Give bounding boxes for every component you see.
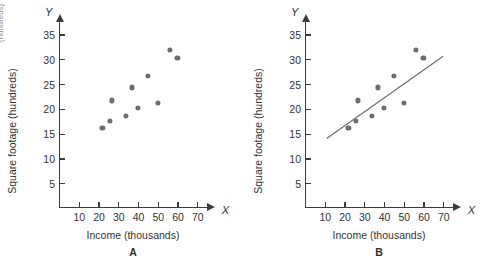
x-tick-label-40: 40 [379, 211, 391, 223]
data-point [129, 85, 134, 90]
y-axis-title-b: Square footage (hundreds) [252, 68, 264, 194]
x-axis-arrow-icon-a [207, 203, 215, 211]
x-axis-arrow-icon-b [453, 203, 461, 211]
y-tick-label-15: 15 [289, 128, 301, 140]
x-tick-30: 30 [118, 202, 119, 207]
x-axis-line-a [59, 207, 207, 208]
y-tick-35: 35 [60, 34, 65, 35]
y-tick-25: 25 [60, 84, 65, 85]
scatterplot-figure: (hundreds) Square footage (hundreds) Y X… [0, 0, 492, 261]
y-axis-line-a [59, 22, 60, 208]
y-tick-label-35: 35 [289, 29, 301, 41]
x-tick-20: 20 [98, 202, 99, 207]
x-tick-70: 70 [197, 202, 198, 207]
y-axis-arrow-icon-a [56, 14, 64, 22]
y-tick-5: 5 [60, 183, 65, 184]
y-tick-label-10: 10 [289, 153, 301, 165]
y-tick-label-30: 30 [289, 54, 301, 66]
x-tick-label-70: 70 [192, 211, 204, 223]
data-point [135, 106, 140, 111]
panel-a: Square footage (hundreds) Y X 5101520253… [0, 0, 246, 261]
x-tick-label-20: 20 [93, 211, 105, 223]
y-tick-label-25: 25 [43, 79, 55, 91]
y-tick-20: 20 [60, 109, 65, 110]
y-axis-letter-a: Y [45, 6, 52, 18]
x-axis-letter-b: X [468, 204, 475, 216]
y-axis-arrow-icon-b [302, 14, 310, 22]
data-point [167, 48, 172, 53]
y-tick-label-5: 5 [295, 178, 301, 190]
x-tick-label-10: 10 [73, 211, 85, 223]
x-tick-label-40: 40 [133, 211, 145, 223]
y-tick-30: 30 [60, 59, 65, 60]
x-tick-label-20: 20 [339, 211, 351, 223]
y-tick-label-5: 5 [49, 178, 55, 190]
y-tick-label-20: 20 [289, 103, 301, 115]
x-tick-60: 60 [177, 202, 178, 207]
x-tick-label-30: 30 [113, 211, 125, 223]
data-point [155, 100, 160, 105]
data-point [110, 98, 115, 103]
x-tick-40: 40 [138, 202, 139, 207]
data-point [123, 114, 128, 119]
y-tick-label-30: 30 [43, 54, 55, 66]
x-tick-10: 10 [79, 202, 80, 207]
y-tick-label-20: 20 [43, 103, 55, 115]
y-tick-label-15: 15 [43, 128, 55, 140]
regression-line-b [305, 22, 453, 208]
x-axis-title-b: Income (thousands) [305, 229, 453, 241]
panel-caption-a: A [59, 246, 207, 258]
x-tick-label-50: 50 [398, 211, 410, 223]
y-tick-label-35: 35 [43, 29, 55, 41]
y-axis-letter-b: Y [291, 6, 298, 18]
x-tick-label-60: 60 [418, 211, 430, 223]
plot-area-b: Y X 5101520253035 10203040506070 [305, 22, 453, 208]
y-tick-15: 15 [60, 134, 65, 135]
x-tick-label-30: 30 [359, 211, 371, 223]
data-point [108, 119, 113, 124]
x-tick-label-10: 10 [319, 211, 331, 223]
y-tick-10: 10 [60, 158, 65, 159]
x-tick-label-60: 60 [172, 211, 184, 223]
data-point [100, 126, 105, 131]
data-point [145, 73, 150, 78]
x-tick-50: 50 [158, 202, 159, 207]
y-tick-label-10: 10 [43, 153, 55, 165]
x-axis-letter-a: X [222, 204, 229, 216]
y-tick-label-25: 25 [289, 79, 301, 91]
y-axis-title-a: Square footage (hundreds) [6, 68, 18, 194]
data-point [175, 55, 180, 60]
x-tick-label-70: 70 [438, 211, 450, 223]
x-tick-label-50: 50 [152, 211, 164, 223]
plot-area-a: Y X 5101520253035 10203040506070 [59, 22, 207, 208]
x-axis-title-a: Income (thousands) [59, 229, 207, 241]
panel-b: Square footage (hundreds) Y X 5101520253… [246, 0, 492, 261]
panel-caption-b: B [305, 246, 453, 258]
